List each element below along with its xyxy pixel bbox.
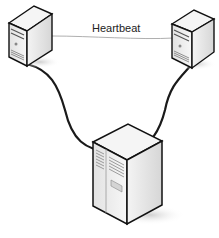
heartbeat-label: Heartbeat: [92, 22, 140, 34]
heartbeat-link: [52, 36, 174, 39]
cluster-diagram: [0, 0, 219, 238]
cable-left: [27, 64, 110, 152]
server-left-icon: [9, 6, 60, 68]
server-right-icon: [172, 10, 216, 70]
storage-cabinet-icon: [93, 124, 185, 225]
